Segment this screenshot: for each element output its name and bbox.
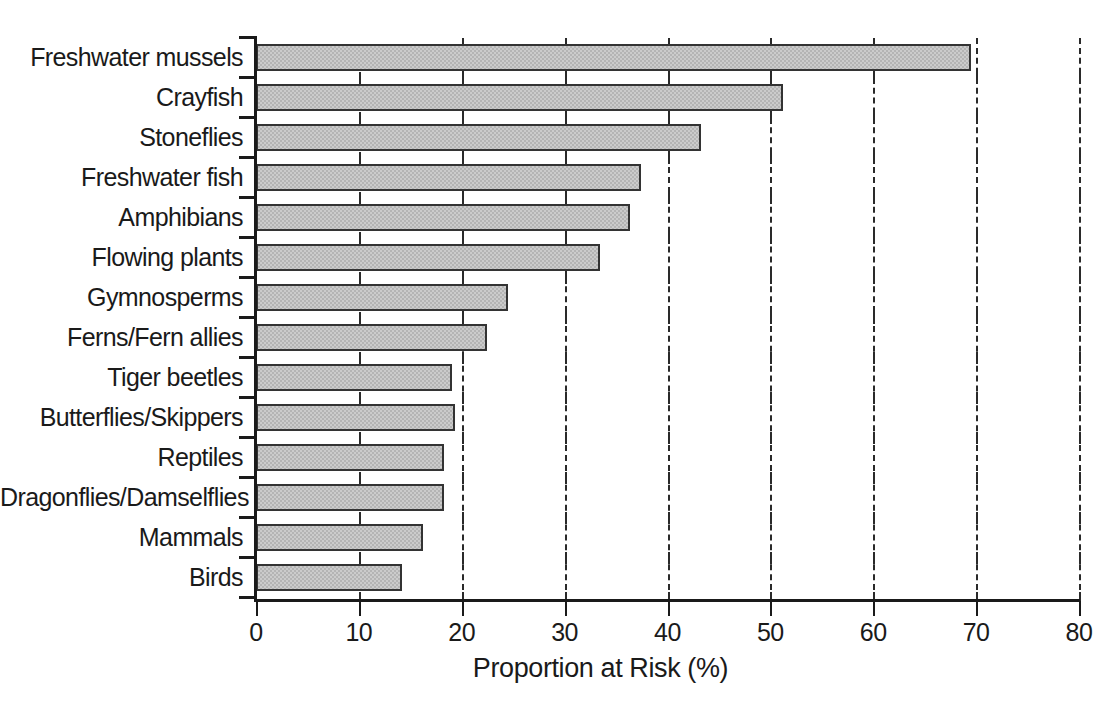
x-tick-label-0: 0 bbox=[249, 618, 262, 647]
y-tick bbox=[239, 276, 256, 279]
y-tick bbox=[239, 196, 256, 199]
y-tick bbox=[239, 356, 256, 359]
y-tick bbox=[239, 476, 256, 479]
x-tick-label-40: 40 bbox=[654, 618, 681, 647]
category-label: Reptiles bbox=[0, 443, 243, 472]
x-tick-20 bbox=[462, 601, 464, 616]
y-tick bbox=[239, 396, 256, 399]
y-tick bbox=[239, 236, 256, 239]
x-axis-title-text: Proportion at Risk (%) bbox=[473, 653, 728, 684]
category-label: Mammals bbox=[0, 523, 243, 552]
x-tick-60 bbox=[873, 601, 875, 616]
x-tick-70 bbox=[976, 601, 978, 616]
y-tick bbox=[239, 116, 256, 119]
category-label: Flowing plants bbox=[0, 243, 243, 272]
category-label: Butterflies/Skippers bbox=[0, 403, 243, 432]
x-tick-label-80: 80 bbox=[1066, 618, 1093, 647]
category-label: Ferns/Fern allies bbox=[0, 323, 243, 352]
category-label: Dragonflies/Damselflies bbox=[0, 483, 243, 512]
y-tick bbox=[239, 436, 256, 439]
y-tick bbox=[239, 516, 256, 519]
category-label: Gymnosperms bbox=[0, 283, 243, 312]
x-tick-80 bbox=[1079, 601, 1081, 616]
y-tick bbox=[239, 156, 256, 159]
y-tick bbox=[239, 556, 256, 559]
y-tick bbox=[239, 316, 256, 319]
category-label: Stoneflies bbox=[0, 123, 243, 152]
x-tick-label-30: 30 bbox=[551, 618, 578, 647]
category-label: Amphibians bbox=[0, 203, 243, 232]
x-tick-0 bbox=[256, 601, 258, 616]
category-label: Freshwater fish bbox=[0, 163, 243, 192]
x-tick-40 bbox=[668, 601, 670, 616]
x-tick-label-20: 20 bbox=[448, 618, 475, 647]
y-tick bbox=[239, 76, 256, 79]
x-tick-30 bbox=[565, 601, 567, 616]
x-tick-label-50: 50 bbox=[757, 618, 784, 647]
x-tick-label-60: 60 bbox=[860, 618, 887, 647]
y-tick bbox=[239, 596, 256, 599]
x-tick-10 bbox=[359, 601, 361, 616]
x-tick-label-10: 10 bbox=[345, 618, 372, 647]
category-label-layer: Freshwater musselsCrayfishStonefliesFres… bbox=[0, 0, 1117, 719]
x-axis-title: Proportion at Risk (%) bbox=[0, 653, 1117, 684]
bar-chart: Freshwater musselsCrayfishStonefliesFres… bbox=[0, 0, 1117, 719]
x-tick-label-70: 70 bbox=[963, 618, 990, 647]
x-tick-50 bbox=[770, 601, 772, 616]
category-label: Tiger beetles bbox=[0, 363, 243, 392]
category-label: Crayfish bbox=[0, 83, 243, 112]
y-tick bbox=[239, 36, 256, 39]
category-label: Freshwater mussels bbox=[0, 43, 243, 72]
category-label: Birds bbox=[0, 563, 243, 592]
